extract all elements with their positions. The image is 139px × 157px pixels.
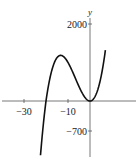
y-tick-label: −700 [66, 126, 87, 137]
function-curve [41, 50, 106, 155]
y-ticks: 2000−700 [66, 19, 92, 137]
x-tick-label: −30 [16, 106, 32, 117]
x-tick-label: −10 [60, 106, 76, 117]
y-axis-label: y [87, 7, 92, 17]
y-tick-label: 2000 [67, 19, 87, 30]
cubic-function-plot: −30−10 2000−700 y [0, 0, 139, 157]
